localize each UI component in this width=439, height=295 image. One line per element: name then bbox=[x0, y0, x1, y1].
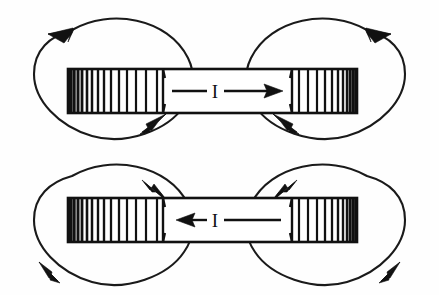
field-arrow-head bbox=[39, 262, 58, 281]
field-arrow-head bbox=[48, 28, 73, 43]
top-panel: I bbox=[34, 19, 405, 139]
field-arrow-head bbox=[381, 262, 400, 281]
solenoid-field-diagram: I bbox=[0, 0, 439, 295]
field-arrow-head bbox=[366, 28, 391, 43]
bottom-panel: I bbox=[34, 165, 405, 285]
current-label: I bbox=[212, 210, 218, 231]
current-label: I bbox=[212, 81, 218, 102]
figure-root: I bbox=[0, 0, 439, 295]
